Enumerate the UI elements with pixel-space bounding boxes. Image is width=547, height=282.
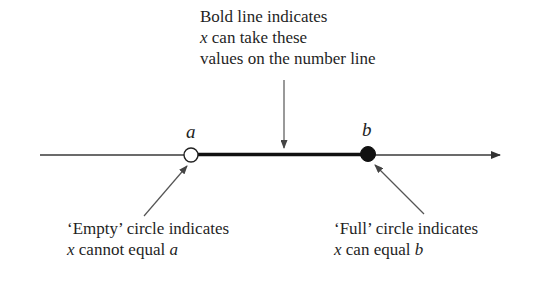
top-annotation-line1: Bold line indicates xyxy=(200,6,376,27)
full-circle-annotation-line1: ‘Full’ circle indicates xyxy=(334,218,478,239)
full-circle-annotation-line2: x can equal b xyxy=(334,239,478,260)
point-label-b: b xyxy=(362,119,372,140)
empty-circle-a xyxy=(184,148,198,162)
point-label-a: a xyxy=(186,121,196,142)
top-annotation-line3: values on the number line xyxy=(200,48,376,69)
full-circle-annotation: ‘Full’ circle indicates x can equal b xyxy=(334,218,478,260)
full-circle-b xyxy=(361,147,376,162)
top-annotation-line2: x can take these xyxy=(200,27,376,48)
left-pointer-arrow xyxy=(144,166,187,216)
right-pointer-arrow xyxy=(375,165,424,214)
empty-circle-annotation: ‘Empty’ circle indicates x cannot equal … xyxy=(67,218,229,260)
variable-x: x xyxy=(200,28,208,47)
empty-circle-annotation-line1: ‘Empty’ circle indicates xyxy=(67,218,229,239)
top-annotation: Bold line indicates x can take these val… xyxy=(200,6,376,69)
empty-circle-annotation-line2: x cannot equal a xyxy=(67,239,229,260)
number-line-diagram: Bold line indicates x can take these val… xyxy=(0,0,547,282)
